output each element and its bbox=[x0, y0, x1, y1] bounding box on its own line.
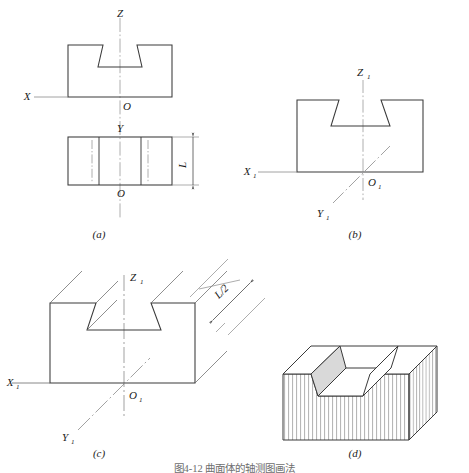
origin-label-o1-subscript-b: 1 bbox=[378, 183, 382, 191]
depth-line-groove-right-top bbox=[151, 271, 183, 303]
axis-label-y1-c: Y bbox=[62, 431, 70, 443]
axis-label-x1-subscript-c: 1 bbox=[16, 383, 20, 391]
origin-label-o-top-a: O bbox=[117, 187, 125, 199]
y1-axis-c bbox=[78, 358, 150, 430]
depth-line-bottom-right bbox=[195, 351, 227, 383]
front-face-outline-b bbox=[297, 100, 423, 172]
figure-root: L Z X O Y O (a) Z 1 X 1 Y 1 O 1 (b) bbox=[0, 0, 469, 473]
dimension-guide-lower bbox=[228, 298, 265, 335]
axis-label-z1-c: Z bbox=[130, 271, 137, 283]
axis-label-y1-b: Y bbox=[317, 207, 325, 219]
panel-label-b: (b) bbox=[349, 228, 362, 241]
front-face-outline-c bbox=[50, 303, 195, 383]
origin-label-o1-b: O bbox=[368, 176, 376, 188]
axis-label-x-a: X bbox=[23, 90, 32, 102]
axis-label-x1-b: X bbox=[243, 165, 252, 177]
axis-label-z-a: Z bbox=[117, 7, 124, 19]
figure-caption: 图4-12 曲面体的轴测图画法 bbox=[0, 462, 469, 473]
panel-label-d: (d) bbox=[349, 447, 362, 460]
dimension-extension-c-lower bbox=[216, 323, 225, 332]
depth-line-groove-left-top bbox=[96, 281, 118, 303]
panel-label-c: (c) bbox=[93, 447, 106, 460]
depth-line-top-left bbox=[50, 271, 82, 303]
y1-axis-b bbox=[333, 146, 390, 203]
origin-label-o-front-a: O bbox=[123, 100, 131, 112]
panel-a: L Z X O Y O (a) bbox=[23, 7, 199, 241]
panel-label-a: (a) bbox=[93, 228, 106, 241]
panel-c: L/2 Z 1 X 1 Y 1 O 1 (c) bbox=[6, 259, 265, 460]
axis-label-z1-b: Z bbox=[357, 66, 364, 78]
axis-label-x1-c: X bbox=[6, 376, 15, 388]
axis-label-y-a: Y bbox=[117, 122, 125, 134]
origin-label-o1-c: O bbox=[129, 389, 137, 401]
axis-label-z1-subscript-c: 1 bbox=[140, 278, 144, 286]
engineering-drawing-figure: L Z X O Y O (a) Z 1 X 1 Y 1 O 1 (b) bbox=[0, 0, 469, 473]
axis-label-z1-subscript-b: 1 bbox=[367, 73, 371, 81]
panel-d: (d) bbox=[283, 346, 437, 460]
axis-label-y1-subscript-b: 1 bbox=[326, 214, 330, 222]
dimension-label-L: L bbox=[176, 162, 188, 169]
origin-label-o1-subscript-c: 1 bbox=[139, 396, 143, 404]
panel-b: Z 1 X 1 Y 1 O 1 (b) bbox=[243, 66, 423, 241]
axis-label-y1-subscript-c: 1 bbox=[71, 438, 75, 446]
axis-label-x1-subscript-b: 1 bbox=[253, 172, 257, 180]
